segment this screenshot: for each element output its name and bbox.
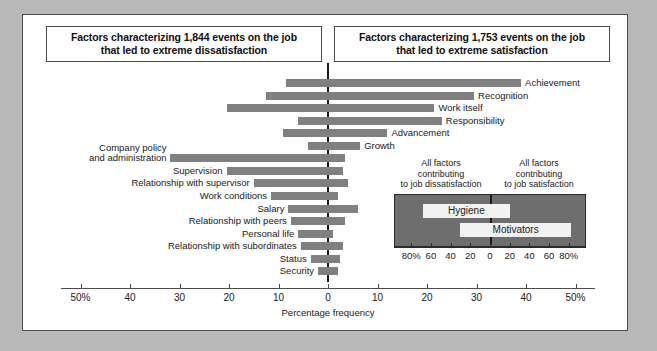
category-label: Status [280,254,307,264]
x-tick-label: 20 [407,292,447,303]
inset-caption-satisfaction: All factors contributing to job satisfac… [484,158,594,190]
bar-responsibility [298,117,442,125]
inset-tick [411,243,412,246]
x-tick [477,284,478,288]
inset-tick [451,243,452,246]
bar-status [311,255,341,263]
category-label: Growth [364,141,395,151]
bar-achievement [286,79,521,87]
x-tick-label: 30 [160,292,200,303]
category-label: Relationship with subordinates [168,241,297,251]
x-tick [427,284,428,288]
bar-relationship-with-subordinates [301,242,343,250]
inset-tick [490,243,491,246]
bar-relationship-with-supervisor [254,179,348,187]
x-tick [279,284,280,288]
category-label: Supervision [173,166,223,176]
inset-cap-right-l1: All factors [484,158,594,169]
x-tick-label: 0 [308,292,348,303]
inset-tick [431,243,432,246]
bar-personal-life [298,230,333,238]
x-tick [526,284,527,288]
inset-tick [529,243,530,246]
category-label: Advancement [391,128,449,138]
x-axis-line [61,288,596,289]
bar-work-itself [227,104,435,112]
bar-growth [308,142,360,150]
inset-cap-left-l1: All factors [386,158,496,169]
inset-zero-line [490,195,492,245]
inset-caption-dissatisfaction: All factors contributing to job dissatis… [386,158,496,190]
bar-security [318,267,338,275]
category-label: Personal life [242,229,294,239]
x-tick-label: 30 [457,292,497,303]
category-label: Responsibility [446,116,505,126]
inset-bar-hygiene: Hygiene [423,204,510,218]
x-tick-label: 50% [556,292,596,303]
category-label: Achievement [525,78,580,88]
bar-advancement [283,129,387,137]
figure-frame: Factors characterizing 1,844 events on t… [0,0,657,351]
inset-tick [549,243,550,246]
category-label: Salary [257,204,284,214]
inset-cap-right-l2: contributing [484,169,594,180]
inset-tick [470,243,471,246]
category-label: Security [280,266,314,276]
x-tick [81,284,82,288]
x-tick-label: 50% [61,292,101,303]
x-tick [130,284,131,288]
x-tick [378,284,379,288]
x-tick [180,284,181,288]
bar-recognition [266,92,474,100]
inset-cap-left-l2: contributing [386,169,496,180]
bar-salary [288,205,357,213]
category-label: Relationship with peers [189,216,287,226]
inset-bar-motivators: Motivators [460,223,570,237]
x-tick-label: 10 [358,292,398,303]
x-tick [576,284,577,288]
inset-tick-label: 80% [556,250,582,261]
category-label: Work conditions [200,191,267,201]
category-label: Company policyand administration [89,143,167,163]
category-label: Recognition [478,91,528,101]
x-axis-title: Percentage frequency [228,307,428,318]
x-tick [229,284,230,288]
inset-cap-left-l3: to job dissatisfaction [386,179,496,190]
bar-work-conditions [271,192,338,200]
x-tick-label: 40 [110,292,150,303]
bar-supervision [227,167,343,175]
inset-plot-box: HygieneMotivators [394,194,586,247]
inset-cap-right-l3: to job satisfaction [484,179,594,190]
inset-tick [510,243,511,246]
category-label: Relationship with supervisor [131,178,249,188]
x-tick [328,284,329,288]
x-tick-label: 40 [506,292,546,303]
bar-relationship-with-peers [291,217,345,225]
inset-tick [569,243,570,246]
x-tick-label: 20 [209,292,249,303]
x-tick-label: 10 [259,292,299,303]
category-label: Work itself [438,103,482,113]
bar-company-policy-and-administration [170,154,346,162]
inset-axis-line [394,247,586,248]
